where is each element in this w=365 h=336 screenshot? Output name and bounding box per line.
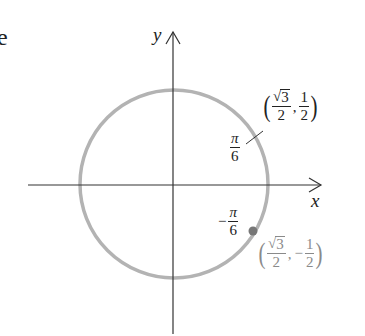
angle-sign: − bbox=[218, 214, 226, 229]
angle-numerator: π bbox=[228, 205, 238, 222]
angle-label-neg-pi-over-6: − π 6 bbox=[218, 205, 238, 238]
point-label-lower: ( √3 2 , − 1 2 ) bbox=[257, 236, 324, 270]
text-fragment: e bbox=[0, 25, 8, 49]
x-axis-label: x bbox=[311, 191, 319, 210]
angle-label-pi-over-6: π 6 bbox=[230, 131, 240, 164]
angle-denominator: 6 bbox=[231, 148, 239, 164]
angle-numerator: π bbox=[230, 131, 240, 148]
unit-circle bbox=[80, 90, 268, 278]
unit-circle-diagram bbox=[0, 0, 365, 336]
highlighted-point bbox=[249, 227, 258, 236]
y-axis-label: y bbox=[153, 25, 161, 44]
point-label-upper: ( √3 2 , 1 2 ) bbox=[262, 89, 319, 123]
angle-denominator: 6 bbox=[229, 222, 237, 238]
